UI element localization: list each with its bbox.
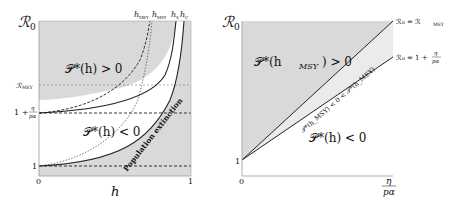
x-axis-label-den: pα bbox=[383, 187, 395, 197]
x-axis-label: h bbox=[111, 184, 119, 199]
region-positive-label: 𝒫*(h) > 0 bbox=[65, 62, 122, 76]
figure: ℛ 0 ℛ MSY 1 + η pα 1 0 1 h h MEY h MSY h… bbox=[0, 0, 454, 207]
tick-x0: 0 bbox=[36, 177, 41, 186]
region-top-label-sub: MSY bbox=[298, 62, 319, 71]
tick-x0-right: 0 bbox=[239, 177, 244, 186]
tick-rmsy-sub: MSY bbox=[22, 85, 34, 90]
label-hc-sub: C bbox=[185, 15, 188, 20]
y-axis-label-sub: 0 bbox=[30, 22, 36, 32]
tick-threshold-den: pα bbox=[29, 113, 37, 120]
tick-threshold: 1 + bbox=[14, 108, 28, 117]
label-hmsy-sub: MSY bbox=[157, 15, 167, 20]
tick-y1: 1 bbox=[32, 162, 37, 171]
label-hs-sub: S bbox=[176, 15, 179, 20]
line-rmsy-label: ℛ₀ = ℛ bbox=[396, 18, 421, 26]
line-threshold-label: ℛ₀ = 1 + bbox=[396, 54, 428, 62]
tick-x1: 1 bbox=[188, 177, 193, 186]
region-top-label-end: ) > 0 bbox=[322, 55, 352, 69]
tick-threshold-num: η bbox=[31, 105, 35, 112]
line-threshold-num: η bbox=[434, 50, 438, 57]
line-threshold-den: pα bbox=[432, 58, 440, 65]
y-axis-label-right-sub: 0 bbox=[234, 22, 240, 32]
region-negative-label: 𝒫*(h) < 0 bbox=[83, 125, 140, 139]
right-panel: ℛ 0 1 0 η pα ℛ₀ = ℛ MSY ℛ₀ = 1 + η pα 𝒫*… bbox=[222, 13, 445, 197]
x-axis-label-num: η bbox=[386, 176, 392, 186]
label-hmey-sub: MEY bbox=[139, 15, 149, 20]
left-panel: ℛ 0 ℛ MSY 1 + η pα 1 0 1 h h MEY h MSY h… bbox=[14, 10, 193, 199]
region-bottom-label: 𝒫*(h) < 0 bbox=[309, 131, 366, 145]
line-rmsy-label-sub: MSY bbox=[433, 22, 445, 27]
region-top-label: 𝒫*(h bbox=[254, 55, 282, 69]
tick-y1-right: 1 bbox=[235, 157, 240, 166]
